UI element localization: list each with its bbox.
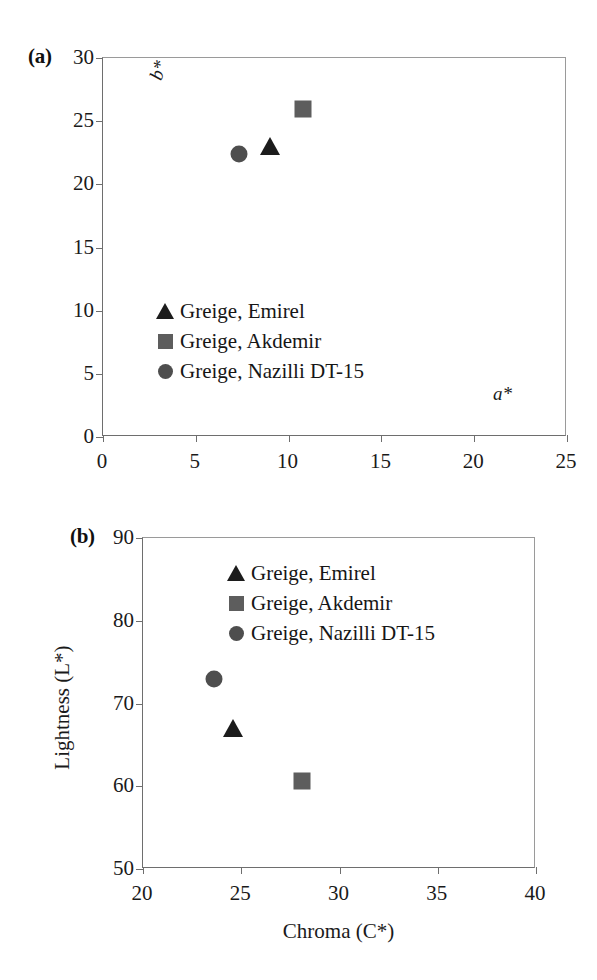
panel-b-xtick-40 bbox=[536, 867, 537, 874]
panel-b-xlabel-title: Chroma (C*) bbox=[142, 919, 535, 944]
panel-b-ytick-70 bbox=[136, 704, 143, 705]
panel-b-xlabel-30: 30 bbox=[328, 881, 349, 906]
panel-b-tag: (b) bbox=[70, 524, 95, 549]
panel-b-xtick-35 bbox=[438, 867, 439, 874]
panel-b-ylabel-90: 90 bbox=[96, 525, 134, 550]
legend-label-nazilli: Greige, Nazilli DT-15 bbox=[248, 623, 435, 644]
panel-b-ytick-60 bbox=[136, 786, 143, 787]
panel-b-ylabel-70: 70 bbox=[96, 690, 134, 715]
panel-b-ylabel-50: 50 bbox=[96, 856, 134, 881]
panel-b-ytick-50 bbox=[136, 869, 143, 870]
panel-b-xlabel-25: 25 bbox=[230, 881, 251, 906]
panel-b: (b) Greige bbox=[0, 0, 597, 980]
panel-b-ylabel-80: 80 bbox=[96, 607, 134, 632]
triangle-marker-icon bbox=[224, 561, 248, 585]
square-marker-icon bbox=[224, 591, 248, 615]
panel-b-ytick-90 bbox=[136, 538, 143, 539]
legend-label-emirel: Greige, Emirel bbox=[248, 563, 376, 584]
figure-root: (a) b* a* bbox=[0, 0, 597, 980]
panel-b-point-akdemir bbox=[294, 773, 311, 790]
panel-b-xtick-25 bbox=[241, 867, 242, 874]
legend-item-nazilli: Greige, Nazilli DT-15 bbox=[224, 618, 435, 648]
legend-label-akdemir: Greige, Akdemir bbox=[248, 593, 392, 614]
panel-b-xtick-20 bbox=[143, 867, 144, 874]
legend-item-akdemir: Greige, Akdemir bbox=[224, 588, 435, 618]
panel-b-ylabel-60: 60 bbox=[96, 773, 134, 798]
panel-b-xlabel-35: 35 bbox=[426, 881, 447, 906]
panel-b-plot-frame: Greige, Emirel Greige, Akdemir Greige, N… bbox=[142, 537, 535, 868]
panel-b-xtick-30 bbox=[340, 867, 341, 874]
legend-item-emirel: Greige, Emirel bbox=[224, 558, 435, 588]
panel-b-ytick-80 bbox=[136, 621, 143, 622]
panel-b-point-nazilli bbox=[205, 670, 222, 687]
panel-b-point-emirel bbox=[223, 719, 243, 737]
panel-b-legend: Greige, Emirel Greige, Akdemir Greige, N… bbox=[224, 558, 435, 648]
panel-b-ylabel-title: Lightness (L*) bbox=[50, 628, 75, 788]
panel-b-xlabel-20: 20 bbox=[132, 881, 153, 906]
circle-marker-icon bbox=[224, 621, 248, 645]
panel-b-xlabel-40: 40 bbox=[525, 881, 546, 906]
